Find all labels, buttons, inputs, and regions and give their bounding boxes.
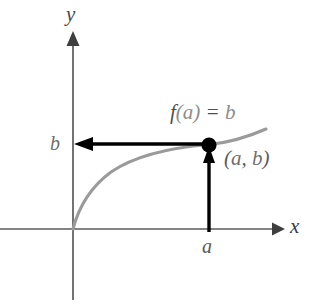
x-axis-label: x	[290, 216, 299, 237]
y-axis-label: y	[66, 4, 75, 25]
point-coordinates-annotation: (a, b)	[224, 148, 270, 169]
function-graph-diagram: y x b a f(a) = b (a, b)	[0, 0, 319, 308]
function-result-b: b	[225, 100, 236, 124]
coord-open-paren: (	[224, 146, 231, 170]
x-tick-label-a: a	[202, 236, 212, 256]
x-axis-arrowhead	[272, 223, 285, 236]
function-value-annotation: f(a) = b	[170, 102, 236, 123]
horizontal-arrow-head	[74, 137, 93, 151]
marked-point-dot	[201, 137, 216, 152]
coord-separator: ,	[242, 146, 253, 170]
coord-y-value: b	[252, 146, 263, 170]
y-axis-arrowhead	[67, 31, 80, 46]
function-argument-a: (a)	[176, 100, 201, 124]
function-equals-sign: =	[200, 100, 225, 124]
coord-x-value: a	[231, 146, 242, 170]
coord-close-paren: )	[263, 146, 270, 170]
graph-canvas	[0, 0, 319, 308]
y-tick-label-b: b	[50, 133, 60, 153]
